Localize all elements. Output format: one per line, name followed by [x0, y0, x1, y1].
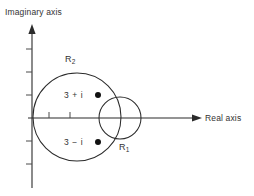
real-axis-label: Real axis — [205, 114, 241, 123]
region-circle-r2 — [33, 73, 121, 161]
region-label-r1-subscript: 1 — [126, 146, 130, 153]
region-label-r2-text: R — [65, 54, 72, 64]
point-label-3-plus-i: 3 + i — [64, 91, 83, 100]
region-label-r2-subscript: 2 — [72, 58, 76, 65]
point-dot-3-plus-i — [95, 92, 101, 98]
point-label-3-minus-i: 3 − i — [64, 138, 83, 147]
real-axis-group — [28, 112, 202, 122]
complex-plane-figure: Imaginary axis Real axis R2 R1 3 + i 3 −… — [0, 0, 254, 196]
region-label-r1: R1 — [119, 143, 129, 152]
imaginary-axis-label: Imaginary axis — [5, 8, 62, 17]
point-dot-3-minus-i — [95, 139, 101, 145]
region-label-r2: R2 — [65, 55, 75, 64]
region-label-r1-text: R — [119, 142, 126, 152]
imaginary-axis-arrow-icon — [28, 24, 35, 34]
figure-canvas — [0, 0, 254, 196]
real-axis-arrow-icon — [192, 114, 202, 121]
